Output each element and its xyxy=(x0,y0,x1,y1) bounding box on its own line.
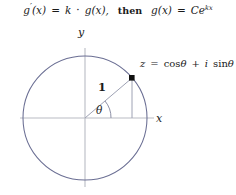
label-theta-cos: θ xyxy=(180,58,186,69)
radius-line xyxy=(85,78,132,118)
point-marker xyxy=(129,75,135,81)
y-axis-label: y xyxy=(78,26,84,39)
label-plus: + xyxy=(191,58,199,69)
label-equals: = xyxy=(150,58,158,69)
radius-length-label: 1 xyxy=(98,80,106,94)
label-imaginary-unit: i xyxy=(205,58,208,69)
angle-theta-label: θ xyxy=(96,104,102,116)
angle-arc xyxy=(105,101,111,118)
complex-point-label: z=cosθ+isinθ xyxy=(140,58,234,69)
label-z: z xyxy=(140,58,145,69)
label-sin: sin xyxy=(213,58,228,69)
label-theta-sin: θ xyxy=(228,58,234,69)
label-cos: cos xyxy=(164,58,181,69)
x-axis-label: x xyxy=(156,112,162,125)
figure-page: g′(x)=k·g(x),theng(x)=Cekx y x 1 θ z=cos… xyxy=(0,0,236,195)
unit-circle-diagram xyxy=(0,0,236,195)
